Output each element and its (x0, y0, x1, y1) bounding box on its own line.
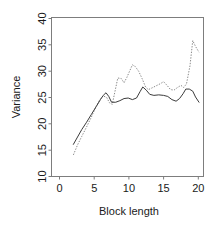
y-axis-title: Variance (10, 76, 22, 119)
y-tick-label-40: 40 (36, 12, 48, 24)
series-line-solid (73, 87, 199, 144)
y-tick-label-15: 15 (36, 144, 48, 156)
plot-canvas: 10 15 20 25 30 35 40 0 5 10 15 20 Bl (0, 0, 219, 234)
y-tick-label-20: 20 (36, 118, 48, 130)
x-tick-label-5: 5 (91, 182, 97, 194)
variance-vs-block-length-chart: 10 15 20 25 30 35 40 0 5 10 15 20 Bl (0, 0, 219, 234)
y-tick-label-30: 30 (36, 65, 48, 77)
x-axis-tick-labels: 0 5 10 15 20 (56, 182, 204, 194)
y-axis-tick-labels: 10 15 20 25 30 35 40 (36, 12, 48, 182)
y-tick-label-10: 10 (36, 170, 48, 182)
x-tick-label-15: 15 (157, 182, 169, 194)
y-tick-label-25: 25 (36, 91, 48, 103)
x-tick-label-10: 10 (123, 182, 135, 194)
x-tick-label-0: 0 (56, 182, 62, 194)
y-tick-label-35: 35 (36, 39, 48, 51)
x-axis-title: Block length (99, 205, 159, 217)
x-tick-label-20: 20 (192, 182, 204, 194)
